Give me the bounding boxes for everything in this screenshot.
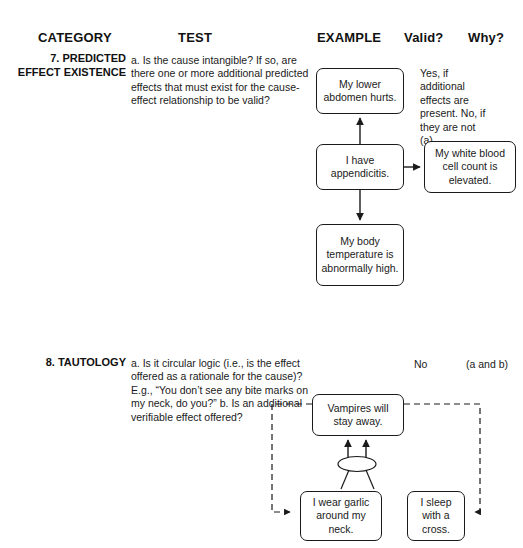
row-test-7: a. Is the cause intangible? If so, are t… [131,54,311,108]
row-why-8: (a and b) [466,358,523,371]
diagram-box-body-temperature: My body temperature is abnormally high. [316,224,404,286]
worksheet-page: CATEGORY TEST EXAMPLE Valid? Why? 7. PRE… [0,0,523,548]
row-category-8: 8. TAUTOLOGY [14,356,126,370]
leg-garlic-to-junction [341,470,349,489]
diagram-box-vampires: Vampires will stay away. [312,394,404,436]
row-test-8: a. Is it circular logic (i.e., is the ef… [131,357,311,424]
row-why-7: Yes, if additional effects are present. … [420,67,492,147]
column-header-valid: Valid? [404,30,444,45]
column-header-category: CATEGORY [38,30,112,45]
leg-cross-to-junction [366,470,374,489]
diagram-box-abdomen: My lower abdomen hurts. [316,68,404,114]
column-header-why: Why? [468,30,504,45]
row-valid-8: No [414,358,454,371]
column-header-example: EXAMPLE [317,30,381,45]
column-header-test: TEST [178,30,212,45]
diagram-box-white-blood-cell: My white blood cell count is elevated. [424,141,516,193]
diagram-box-garlic: I wear garlic around my neck. [300,491,382,541]
diagram-box-appendicitis: I have appendicitis. [316,144,404,190]
and-junction-ellipse [338,457,376,472]
diagram-box-cross: I sleep with a cross. [407,491,465,541]
row-category-7: 7. PREDICTED EFFECT EXISTENCE [14,52,126,79]
